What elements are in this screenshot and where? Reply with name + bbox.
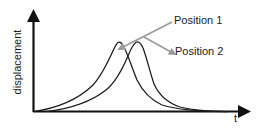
annotation-label-position-2: Position 2	[175, 45, 223, 57]
x-axis-label: t	[234, 112, 237, 124]
y-axis-label: displacement	[11, 19, 23, 105]
annotation-label-position-1: Position 1	[174, 14, 222, 26]
arrow-to-position-1	[123, 22, 172, 47]
arrow-to-position-2	[144, 37, 171, 52]
resonance-curve-figure: Position 1 Position 2 t displacement	[0, 0, 261, 128]
